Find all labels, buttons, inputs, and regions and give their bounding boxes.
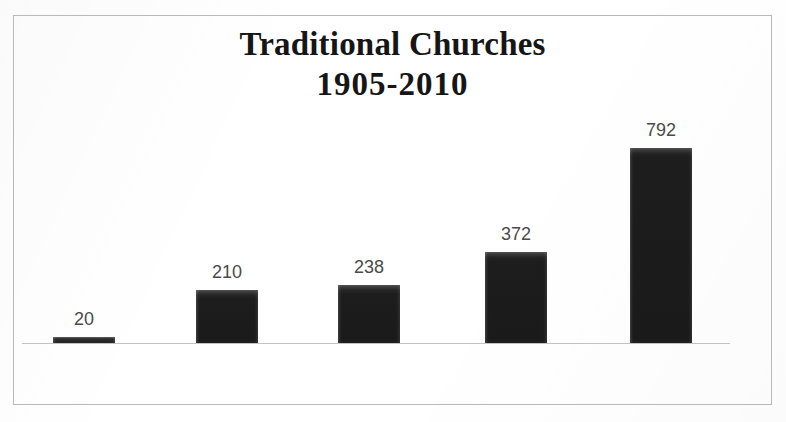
- bar[interactable]: [53, 337, 115, 343]
- chart-figure: Traditional Churches 1905-2010 201905210…: [0, 0, 786, 422]
- bar-value-label: 210: [167, 262, 287, 283]
- bar[interactable]: [196, 290, 258, 343]
- bar-value-label: 792: [601, 120, 721, 141]
- bar[interactable]: [338, 285, 400, 343]
- bar-value-label: 372: [456, 224, 576, 245]
- category-axis-line: [22, 343, 730, 344]
- plot-area: 2019052101960238199037220007922010: [0, 0, 786, 422]
- bar[interactable]: [485, 252, 547, 343]
- bar-value-label: 20: [24, 309, 144, 330]
- bar-value-label: 238: [309, 257, 429, 278]
- bar[interactable]: [630, 148, 692, 343]
